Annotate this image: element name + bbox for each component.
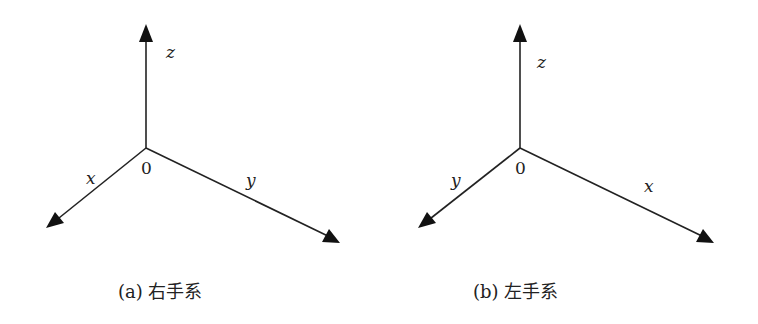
origin-label: 0 — [141, 158, 152, 178]
y-axis — [146, 148, 332, 238]
panel-left-handed: z y x 0 (b) 左手系 — [418, 24, 714, 302]
x-axis-arrowhead-icon — [46, 212, 64, 228]
y-axis — [426, 148, 520, 222]
coordinate-systems-figure: z x y 0 (a) 右手系 z y x 0 (b) 左手系 — [0, 0, 758, 324]
caption-a: (a) 右手系 — [118, 281, 203, 302]
z-axis-label: z — [165, 42, 176, 62]
caption-b: (b) 左手系 — [473, 281, 558, 302]
x-axis — [54, 148, 146, 222]
x-axis-label: x — [86, 168, 96, 188]
z-axis-arrowhead-icon — [139, 24, 153, 42]
y-axis-arrowhead-icon — [322, 229, 340, 243]
origin-label: 0 — [515, 158, 526, 178]
y-axis-arrowhead-icon — [418, 212, 436, 228]
x-axis-arrowhead-icon — [696, 229, 714, 243]
x-axis — [520, 148, 706, 238]
y-axis-label: y — [245, 170, 256, 190]
y-axis-label: y — [450, 170, 461, 190]
x-axis-label: x — [644, 176, 654, 196]
z-axis-label: z — [536, 52, 547, 72]
z-axis-arrowhead-icon — [513, 24, 527, 42]
panel-right-handed: z x y 0 (a) 右手系 — [46, 24, 340, 302]
